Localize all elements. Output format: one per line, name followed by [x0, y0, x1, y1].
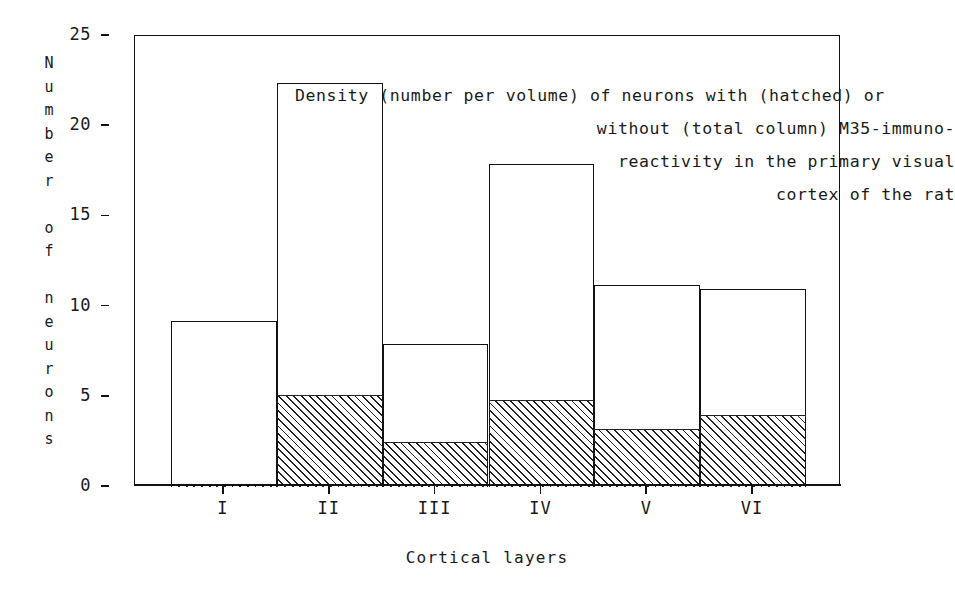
bar-total[interactable] [171, 321, 277, 487]
bar-group[interactable] [277, 36, 383, 487]
x-axis-tick-mark [751, 486, 753, 494]
y-axis-tick-mark [101, 124, 109, 126]
x-axis-tick-label: III [418, 498, 452, 518]
x-axis-title: Cortical layers [134, 548, 840, 567]
y-axis-tick-mark [101, 485, 109, 487]
x-axis: IIIIIIIVVVI [134, 486, 840, 546]
x-axis-tick-mark [328, 486, 330, 494]
bar-hatched-segment[interactable] [489, 400, 595, 487]
x-axis-tick-mark [540, 486, 542, 494]
bars-layer [135, 36, 841, 487]
bar-hatched-segment[interactable] [383, 442, 489, 487]
plot-area: Density (number per volume) of neurons w… [134, 35, 840, 486]
x-axis-tick-label: V [641, 498, 652, 518]
y-axis-tick-mark [101, 34, 109, 36]
x-axis-tick-label: II [318, 498, 340, 518]
y-axis-tick-label: 20 [70, 114, 91, 134]
bar-hatched-segment[interactable] [594, 429, 700, 487]
y-axis: 0510152025 [0, 0, 134, 600]
bar-hatched-segment[interactable] [700, 415, 806, 487]
bar-group[interactable] [383, 36, 489, 487]
x-axis-tick-label: I [217, 498, 228, 518]
y-axis-tick-label: 10 [70, 295, 91, 315]
y-axis-tick-mark [101, 395, 109, 397]
y-axis-tick-mark [101, 305, 109, 307]
y-axis-tick-label: 5 [80, 385, 91, 405]
bar-group[interactable] [489, 36, 595, 487]
x-axis-tick-label: IV [529, 498, 551, 518]
y-axis-tick-mark [101, 215, 109, 217]
bar-group[interactable] [594, 36, 700, 487]
bar-hatched-segment[interactable] [277, 395, 383, 487]
y-axis-tick-label: 25 [70, 24, 91, 44]
y-axis-tick-label: 15 [70, 204, 91, 224]
bar-group[interactable] [171, 36, 277, 487]
x-axis-tick-mark [434, 486, 436, 494]
y-axis-tick-label: 0 [80, 475, 91, 495]
x-axis-tick-mark [222, 486, 224, 494]
x-axis-tick-label: VI [741, 498, 763, 518]
bar-group[interactable] [700, 36, 806, 487]
x-axis-tick-mark [645, 486, 647, 494]
